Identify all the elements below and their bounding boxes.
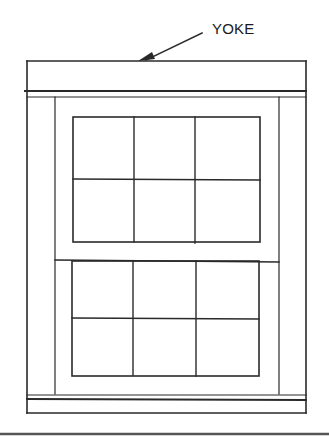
window-elevation-drawing [0,0,329,436]
yoke-callout-arrow [138,33,202,61]
window-frame [27,61,306,413]
lower-sash [72,261,259,376]
upper-sash [73,117,260,243]
sill [27,395,306,400]
yoke [25,91,306,97]
jamb-stops [55,97,279,394]
